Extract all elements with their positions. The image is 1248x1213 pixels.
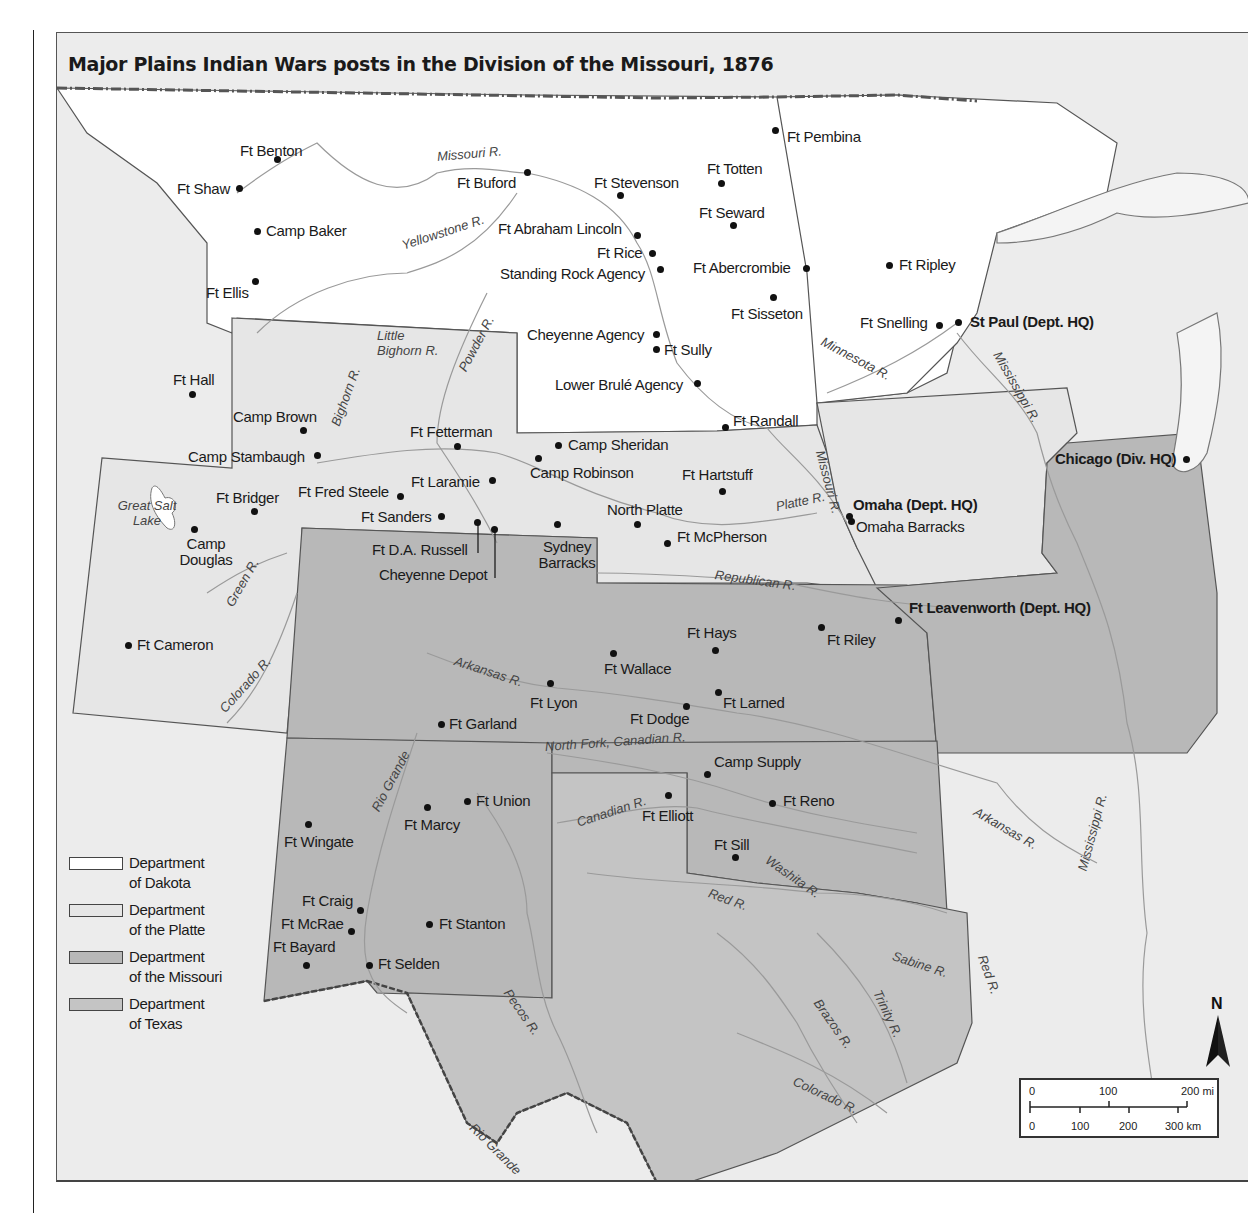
post-label: Sydney Barracks — [532, 539, 602, 571]
post-dot[interactable] — [683, 703, 690, 710]
post-label: Omaha Barracks — [856, 519, 964, 535]
post-dot[interactable] — [665, 792, 672, 799]
post-dot[interactable] — [718, 180, 725, 187]
post-dot[interactable] — [704, 771, 711, 778]
post-dot[interactable] — [438, 513, 445, 520]
post-dot[interactable] — [454, 443, 461, 450]
post-label: Ft Hays — [687, 625, 737, 641]
post-label: Camp Brown — [233, 409, 317, 425]
post-dot[interactable] — [300, 427, 307, 434]
legend-item-dakota: Departmentof Dakota — [69, 853, 269, 893]
post-label: Ft Rice — [597, 245, 642, 261]
post-dot[interactable] — [770, 294, 777, 301]
post-dot[interactable] — [236, 185, 243, 192]
post-dot[interactable] — [719, 488, 726, 495]
legend-label: of Dakota — [129, 874, 191, 891]
post-label: Camp Robinson — [530, 465, 634, 481]
post-label: Ft Sisseton — [731, 306, 803, 322]
post-dot[interactable] — [366, 962, 373, 969]
post-label: Ft Marcy — [404, 817, 460, 833]
post-label: Ft Sanders — [361, 509, 431, 525]
post-dot[interactable] — [722, 424, 729, 431]
post-label: Ft Cameron — [137, 637, 213, 653]
post-label: Standing Rock Agency — [500, 266, 645, 282]
post-dot[interactable] — [657, 266, 664, 273]
legend-swatch — [69, 904, 123, 917]
post-label: Ft Laramie — [411, 474, 480, 490]
post-dot[interactable] — [489, 477, 496, 484]
post-label: Cheyenne Agency — [527, 327, 644, 343]
post-dot[interactable] — [464, 798, 471, 805]
post-dot[interactable] — [252, 278, 259, 285]
post-label: Ft Fred Steele — [298, 484, 389, 500]
legend-swatch — [69, 857, 123, 870]
post-label: Camp Stambaugh — [188, 449, 305, 465]
post-dot[interactable] — [474, 519, 481, 526]
post-dot[interactable] — [555, 442, 562, 449]
post-dot[interactable] — [314, 452, 321, 459]
post-dot[interactable] — [769, 800, 776, 807]
post-dot[interactable] — [397, 493, 404, 500]
post-label-hq: St Paul (Dept. HQ) — [970, 314, 1094, 330]
river-label: Little Bighorn R. — [377, 328, 447, 358]
post-dot[interactable] — [653, 331, 660, 338]
post-dot[interactable] — [554, 521, 561, 528]
post-dot[interactable] — [955, 319, 962, 326]
post-label: Ft Hall — [173, 372, 214, 388]
post-label: Ft Reno — [783, 793, 834, 809]
post-dot[interactable] — [303, 962, 310, 969]
post-dot[interactable] — [254, 228, 261, 235]
legend-label: of Texas — [129, 1015, 182, 1032]
post-dot[interactable] — [803, 265, 810, 272]
post-dot[interactable] — [634, 232, 641, 239]
post-label: Ft Sill — [714, 837, 749, 853]
post-dot[interactable] — [634, 521, 641, 528]
post-dot[interactable] — [730, 222, 737, 229]
post-dot[interactable] — [732, 854, 739, 861]
post-dot[interactable] — [649, 250, 656, 257]
post-dot[interactable] — [848, 518, 855, 525]
post-dot[interactable] — [305, 821, 312, 828]
legend-item-texas: Departmentof Texas — [69, 994, 269, 1034]
post-dot[interactable] — [1183, 456, 1190, 463]
post-dot[interactable] — [125, 642, 132, 649]
post-dot[interactable] — [357, 907, 364, 914]
legend-label: of the Platte — [129, 921, 205, 938]
legend-label: Department — [129, 995, 204, 1012]
post-dot[interactable] — [886, 262, 893, 269]
post-dot[interactable] — [772, 127, 779, 134]
post-dot[interactable] — [653, 346, 660, 353]
post-label: Ft Shaw — [177, 181, 230, 197]
post-label: Ft Larned — [723, 695, 785, 711]
post-dot[interactable] — [251, 508, 258, 515]
post-label: Ft Buford — [457, 175, 516, 191]
post-dot[interactable] — [936, 322, 943, 329]
post-dot[interactable] — [438, 721, 445, 728]
map-title: Major Plains Indian Wars posts in the Di… — [68, 53, 773, 75]
post-dot[interactable] — [189, 391, 196, 398]
post-dot[interactable] — [491, 526, 498, 533]
post-dot[interactable] — [348, 928, 355, 935]
post-dot[interactable] — [818, 624, 825, 631]
post-dot[interactable] — [694, 380, 701, 387]
post-dot[interactable] — [664, 540, 671, 547]
post-dot[interactable] — [895, 617, 902, 624]
legend-swatch — [69, 998, 123, 1011]
post-dot[interactable] — [191, 526, 198, 533]
post-label: Ft Elliott — [642, 808, 693, 824]
post-dot[interactable] — [610, 650, 617, 657]
post-label-hq: Omaha (Dept. HQ) — [853, 497, 977, 513]
post-dot[interactable] — [547, 680, 554, 687]
post-dot[interactable] — [426, 921, 433, 928]
post-dot[interactable] — [715, 689, 722, 696]
scale-mi-200: 200 mi — [1181, 1085, 1214, 1097]
post-dot[interactable] — [712, 647, 719, 654]
page-margin-rule — [33, 30, 34, 1213]
post-dot[interactable] — [617, 192, 624, 199]
post-dot[interactable] — [424, 804, 431, 811]
post-dot[interactable] — [535, 455, 542, 462]
post-label: Ft Stevenson — [594, 175, 679, 191]
post-dot[interactable] — [524, 169, 531, 176]
post-label: Ft Seward — [699, 205, 765, 221]
post-label: Ft Randall — [733, 413, 798, 429]
